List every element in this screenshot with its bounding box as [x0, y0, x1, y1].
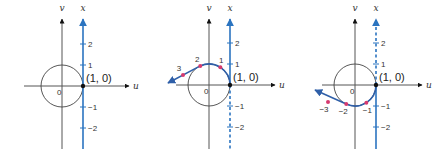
- wrapped-point-label: −3: [319, 105, 329, 114]
- origin-label: 0: [350, 87, 355, 96]
- tick-label: −1: [381, 102, 391, 111]
- wrapped-point: [218, 65, 222, 69]
- wrapping-function-diagram: uvx21−1−2(1, 0)0uvx21−1−2123(1, 0)0uvx21…: [0, 0, 444, 160]
- x-line-label: x: [373, 3, 378, 13]
- u-axis-label: u: [279, 80, 285, 90]
- panel-2: uvx21−1−2123(1, 0)0: [168, 3, 285, 149]
- point-one-zero-label: (1, 0): [86, 72, 112, 84]
- tick-label: −1: [88, 103, 98, 112]
- v-axis-label: v: [59, 3, 64, 13]
- diagram-canvas: uvx21−1−2(1, 0)0uvx21−1−2123(1, 0)0uvx21…: [0, 0, 444, 160]
- tick-label: 1: [235, 60, 240, 69]
- point-one-zero: [228, 83, 232, 87]
- wrapped-point-label: 2: [195, 55, 200, 64]
- tick-label: −2: [88, 124, 98, 133]
- u-axis-label: u: [133, 81, 139, 91]
- tick-label: −1: [235, 102, 245, 111]
- wrapped-point-label: −1: [363, 106, 373, 115]
- point-one-zero: [81, 84, 85, 88]
- wrapped-point: [344, 102, 348, 106]
- point-one-zero-label: (1, 0): [233, 71, 259, 83]
- tick-label: 1: [88, 61, 93, 70]
- wrapped-point: [181, 73, 185, 77]
- wrapped-point-label: −2: [339, 107, 349, 116]
- u-axis-label: u: [426, 80, 432, 90]
- tick-label: 2: [88, 40, 93, 49]
- tick-label: −2: [381, 123, 391, 132]
- origin-label: 0: [57, 88, 62, 97]
- point-one-zero-label: (1, 0): [379, 71, 405, 83]
- wrapped-point-label: 1: [219, 56, 224, 65]
- v-axis-label: v: [206, 3, 211, 13]
- tick-label: −2: [235, 123, 245, 132]
- x-line-label: x: [80, 3, 85, 13]
- tick-label: 1: [381, 60, 386, 69]
- panel-1: uvx21−1−2(1, 0)0: [24, 3, 139, 149]
- point-one-zero: [374, 83, 378, 87]
- tick-label: 2: [235, 39, 240, 48]
- x-line-label: x: [227, 3, 232, 13]
- wrapped-point: [198, 64, 202, 68]
- tick-label: 2: [381, 39, 386, 48]
- v-axis-label: v: [352, 3, 357, 13]
- wrapped-point: [326, 100, 330, 104]
- wrapped-point-label: 3: [177, 64, 182, 73]
- origin-label: 0: [204, 87, 209, 96]
- panel-3: uvx21−1−2−1−2−3(1, 0)0: [315, 3, 432, 149]
- wrapped-point: [364, 101, 368, 105]
